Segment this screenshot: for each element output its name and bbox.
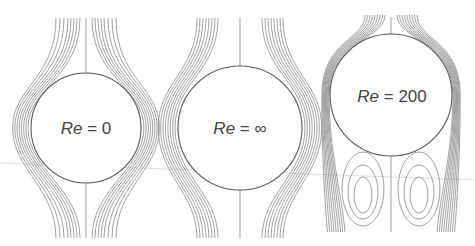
flow-past-cylinder-figure: Re = 0 Re = ∞ Re = 200 — [0, 0, 475, 246]
re200-wake-eddy — [404, 165, 434, 219]
re200-wake-eddy — [348, 165, 378, 219]
label-re-0: Re = 0 — [61, 119, 112, 139]
label-re-infinity: Re = ∞ — [213, 119, 266, 139]
re200-wake-eddy — [354, 177, 372, 213]
re200-wake-eddy — [410, 177, 428, 213]
label-re-200: Re = 200 — [357, 87, 427, 107]
